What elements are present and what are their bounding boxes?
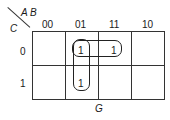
col-header-00: 00 <box>42 20 53 30</box>
row-var-label: C <box>10 24 17 34</box>
row-header-1: 1 <box>20 79 26 89</box>
col-header-01: 01 <box>75 20 86 30</box>
col-header-10: 10 <box>142 20 153 30</box>
group-loop-vertical <box>73 39 90 91</box>
row-header-0: 0 <box>20 47 26 57</box>
output-label: G <box>95 104 103 114</box>
col-header-11: 11 <box>109 20 119 30</box>
grid-line <box>33 65 164 66</box>
col-vars-label: A B <box>21 8 37 18</box>
